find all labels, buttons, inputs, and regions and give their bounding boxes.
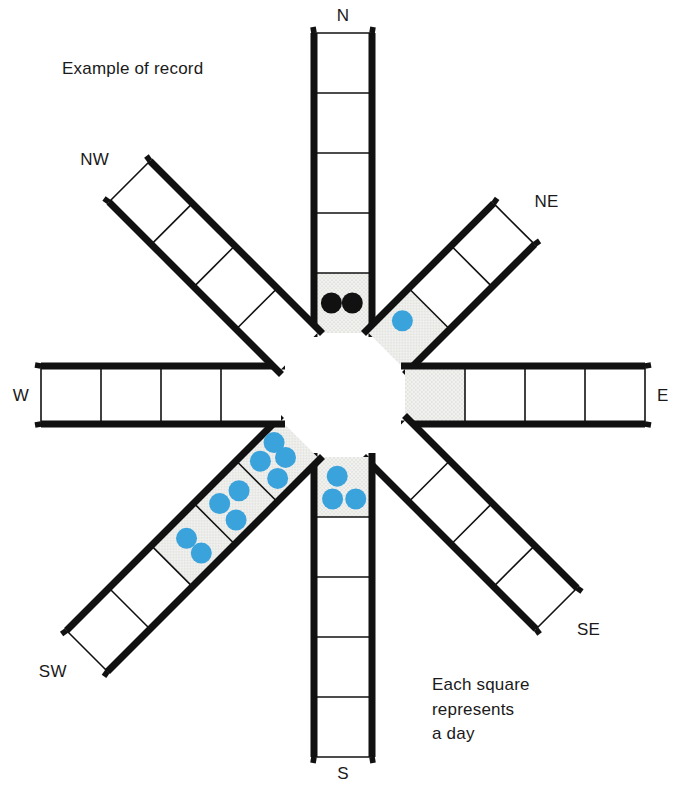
cell-s-2 bbox=[314, 517, 372, 577]
direction-label-s: S bbox=[337, 764, 349, 783]
cell-w-3 bbox=[101, 366, 161, 424]
figure-title: Example of record bbox=[62, 57, 203, 82]
arm-s bbox=[313, 453, 373, 763]
cell-w-4 bbox=[41, 366, 101, 424]
direction-label-n: N bbox=[337, 6, 349, 25]
day-dot-n-1-2 bbox=[342, 293, 363, 314]
cell-e-2 bbox=[465, 366, 525, 424]
day-dot-s-1-2 bbox=[322, 489, 343, 510]
cell-s-5 bbox=[314, 697, 372, 757]
direction-label-nw: NW bbox=[80, 150, 109, 169]
cell-shading-s-1 bbox=[314, 457, 372, 517]
day-dot-s-1-3 bbox=[327, 466, 348, 487]
arm-sw bbox=[62, 415, 324, 677]
wind-rose-svg: NNEESESSWWNW bbox=[0, 0, 685, 787]
arm-tip-tick bbox=[535, 629, 540, 634]
arm-tip-tick bbox=[645, 424, 651, 425]
arm-nw bbox=[104, 156, 323, 375]
direction-label-ne: NE bbox=[535, 192, 559, 211]
arm-tip-tick bbox=[103, 671, 108, 676]
direction-label-sw: SW bbox=[39, 662, 67, 681]
arm-tip-tick bbox=[645, 365, 651, 366]
arm-n bbox=[313, 27, 373, 337]
arm-tip-tick bbox=[146, 156, 151, 161]
arm-tip-tick bbox=[577, 587, 582, 592]
direction-label-e: E bbox=[657, 386, 669, 405]
arm-ne bbox=[363, 198, 540, 375]
wind-rose-diagram: Example of record Each square represents… bbox=[0, 0, 685, 787]
day-dot-s-1-1 bbox=[345, 489, 366, 510]
arm-w bbox=[35, 365, 285, 425]
day-dot-n-1-1 bbox=[321, 293, 342, 314]
arm-tip-tick bbox=[493, 198, 498, 203]
arm-e bbox=[401, 365, 651, 425]
arm-tip-tick bbox=[372, 27, 373, 33]
arm-tip-tick bbox=[313, 757, 314, 763]
legend-caption: Each square represents a day bbox=[432, 673, 530, 747]
cell-w-2 bbox=[161, 366, 221, 424]
arm-tip-tick bbox=[313, 27, 314, 33]
cell-e-4 bbox=[585, 366, 645, 424]
arm-tip-tick bbox=[35, 424, 41, 425]
direction-label-w: W bbox=[13, 386, 29, 405]
arm-tip-tick bbox=[535, 240, 540, 245]
cell-n-3 bbox=[314, 153, 372, 213]
arm-tip-tick bbox=[62, 630, 67, 635]
cell-s-4 bbox=[314, 637, 372, 697]
direction-label-se: SE bbox=[577, 620, 600, 639]
cell-n-5 bbox=[314, 33, 372, 93]
arm-tip-tick bbox=[372, 757, 373, 763]
cell-n-2 bbox=[314, 213, 372, 273]
arm-se bbox=[363, 415, 582, 634]
cell-shading-e-1 bbox=[405, 366, 465, 424]
arm-tip-tick bbox=[104, 198, 109, 203]
arm-tip-tick bbox=[35, 365, 41, 366]
cell-e-3 bbox=[525, 366, 585, 424]
cell-s-3 bbox=[314, 577, 372, 637]
cell-w-1 bbox=[221, 366, 281, 424]
cell-n-4 bbox=[314, 93, 372, 153]
